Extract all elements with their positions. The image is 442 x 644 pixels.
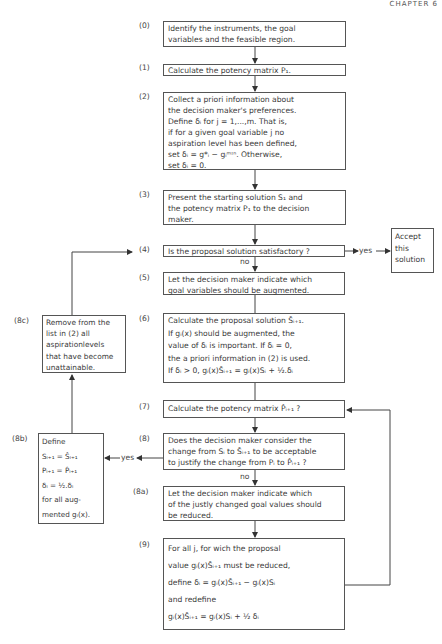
step-label-2: (2) bbox=[139, 92, 150, 101]
step-2-line: Define δᵢ for j = 1,...,m. That is, bbox=[168, 116, 341, 127]
step-box-8a: Let the decision maker indicate which of… bbox=[163, 486, 345, 521]
step-9-line: define δᵢ = gᵢ(x)Ŝᵢ₊₁ − gᵢ(x)Sᵢ bbox=[168, 574, 340, 591]
accept-solution-box: Accept this solution bbox=[391, 228, 434, 273]
step-3-line: the potency matrix P₁ to the decision bbox=[168, 203, 341, 214]
step-label-8a: (8a) bbox=[133, 487, 148, 496]
step-6-line: the a priori information in (2) is used. bbox=[168, 353, 340, 366]
step-box-2: Collect a priori information about the d… bbox=[163, 92, 346, 170]
step-6-line: If gᵢ(x) should be augmented, the bbox=[168, 328, 340, 341]
accept-line: this bbox=[395, 243, 430, 255]
step-8c-line: aspirationlevels bbox=[46, 339, 122, 350]
step-2-line: set δᵢ = 0. bbox=[168, 160, 341, 171]
step-9-line: For all j, for wich the proposal bbox=[168, 540, 340, 557]
step-8c-line: list in (2) all bbox=[46, 328, 122, 339]
step-0-line: variables and the feasible region. bbox=[168, 34, 341, 45]
step-box-3: Present the starting solution S₁ and the… bbox=[163, 190, 346, 225]
step-box-7: Calculate the potency matrix P̂ᵢ₊₁ ? bbox=[163, 400, 345, 418]
step-box-4-decision: Is the proposal solution satisfactory ? bbox=[163, 245, 345, 257]
step-6-line: Calculate the proposal solution Ŝᵢ₊₁. bbox=[168, 315, 340, 328]
step-label-7: (7) bbox=[139, 402, 150, 411]
step-label-0: (0) bbox=[139, 21, 150, 30]
step-2-line: Collect a priori information about bbox=[168, 94, 341, 105]
step-label-8b: (8b) bbox=[12, 434, 28, 443]
step-2-line: the decision maker's preferences. bbox=[168, 105, 341, 116]
step-7-line: Calculate the potency matrix P̂ᵢ₊₁ ? bbox=[168, 402, 340, 416]
edge-label-yes-8: yes bbox=[121, 453, 134, 462]
step-6-line: value of δᵢ is important. If δᵢ = 0, bbox=[168, 340, 340, 353]
step-box-1: Calculate the potency matrix P₁. bbox=[163, 64, 346, 76]
step-9-line: and redefine bbox=[168, 591, 340, 608]
step-8a-line: be reduced. bbox=[168, 510, 340, 521]
step-5-line: Let the decision maker indicate which bbox=[168, 274, 340, 285]
step-5-line: goal variables should be augmented. bbox=[168, 285, 340, 296]
step-label-8: (8) bbox=[139, 434, 150, 443]
step-2-line: if for a given goal variable j no bbox=[168, 127, 341, 138]
step-4-line: Is the proposal solution satisfactory ? bbox=[168, 247, 340, 256]
step-box-8c: Remove from the list in (2) all aspirati… bbox=[42, 315, 126, 373]
step-1-line: Calculate the potency matrix P₁. bbox=[168, 66, 341, 75]
step-8-line: change from Sᵢ to Ŝᵢ₊₁ to be acceptable bbox=[168, 446, 340, 457]
step-label-4: (4) bbox=[139, 245, 150, 254]
step-8b-line: for all aug- bbox=[42, 493, 100, 508]
edge-label-no-4: no bbox=[240, 257, 249, 266]
accept-line: Accept bbox=[395, 231, 430, 243]
step-9-line: gᵢ(x)Ŝᵢ₊₁ = gᵢ(x)Sᵢ + ½ δᵢ bbox=[168, 608, 340, 625]
step-8b-line: Sᵢ₊₁ = Ŝᵢ₊₁ bbox=[42, 450, 100, 465]
step-8c-line: unattainable. bbox=[46, 362, 122, 373]
step-label-8c: (8c) bbox=[14, 316, 29, 325]
step-box-8b: Define Sᵢ₊₁ = Ŝᵢ₊₁ Pᵢ₊₁ = P̂ᵢ₊₁ δᵢ = ½.δ… bbox=[38, 433, 104, 524]
step-8-line: to justify the change from Pᵢ to P̂ᵢ₊₁ ? bbox=[168, 457, 340, 468]
step-0-line: Identify the instruments, the goal bbox=[168, 23, 341, 34]
step-3-line: maker. bbox=[168, 214, 341, 225]
step-6-line: If δᵢ > 0, gᵢ(x)Ŝᵢ₊₁ = gᵢ(x)Sᵢ + ½.δᵢ bbox=[168, 365, 340, 378]
edge-label-yes-4: yes bbox=[359, 246, 372, 255]
step-8b-line: Pᵢ₊₁ = P̂ᵢ₊₁ bbox=[42, 464, 100, 479]
step-2-line: aspiration level has been defined, bbox=[168, 138, 341, 149]
step-box-9: For all j, for wich the proposal value g… bbox=[163, 538, 345, 630]
step-label-1: (1) bbox=[139, 63, 150, 72]
step-8b-line: δᵢ = ½.δᵢ bbox=[42, 479, 100, 494]
step-label-5: (5) bbox=[139, 273, 150, 282]
step-box-8-decision: Does the decision maker consider the cha… bbox=[163, 433, 345, 470]
step-8a-line: Let the decision maker indicate which bbox=[168, 488, 340, 499]
edge-label-no-8: no bbox=[240, 472, 249, 481]
step-8c-line: Remove from the bbox=[46, 317, 122, 328]
step-box-5: Let the decision maker indicate which go… bbox=[163, 272, 345, 295]
step-2-line: set δᵢ = g*ᵢ − gᵢᵐᶦⁿ. Otherwise, bbox=[168, 149, 341, 160]
step-8a-line: of the justly changed goal values should bbox=[168, 499, 340, 510]
step-3-line: Present the starting solution S₁ and bbox=[168, 192, 341, 203]
step-box-0: Identify the instruments, the goal varia… bbox=[163, 21, 346, 47]
step-label-3: (3) bbox=[139, 190, 150, 199]
step-label-6: (6) bbox=[139, 314, 150, 323]
step-9-line: value gᵢ(x)Ŝᵢ₊₁ must be reduced, bbox=[168, 557, 340, 574]
step-label-9: (9) bbox=[139, 540, 150, 549]
step-8c-line: that have become bbox=[46, 351, 122, 362]
step-box-6: Calculate the proposal solution Ŝᵢ₊₁. If… bbox=[163, 313, 345, 383]
step-8b-line: Define bbox=[42, 435, 100, 450]
step-8-line: Does the decision maker consider the bbox=[168, 435, 340, 446]
accept-line: solution bbox=[395, 254, 430, 266]
step-8b-line: mented gᵢ(x). bbox=[42, 508, 100, 523]
